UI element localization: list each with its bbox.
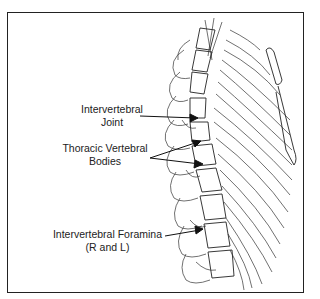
- label-thoracic-vertebral-bodies: Thoracic Vertebral Bodies: [50, 142, 160, 168]
- sternum: [266, 48, 296, 165]
- label-line: (R and L): [40, 241, 175, 254]
- label-intervertebral-joint: Intervertebral Joint: [62, 103, 162, 129]
- label-arrows: [140, 114, 203, 236]
- label-line: Bodies: [50, 155, 160, 168]
- ribs: [214, 30, 292, 290]
- label-intervertebral-foramina: Intervertebral Foramina (R and L): [40, 228, 175, 254]
- vertebral-bodies: [190, 28, 234, 278]
- label-line: Thoracic Vertebral: [50, 142, 160, 155]
- label-line: Intervertebral Foramina: [40, 228, 175, 241]
- label-line: Intervertebral: [62, 103, 162, 116]
- arrow-joint-head: [190, 114, 198, 122]
- label-line: Joint: [62, 116, 162, 129]
- arrow-bodies-lower-head: [194, 160, 203, 168]
